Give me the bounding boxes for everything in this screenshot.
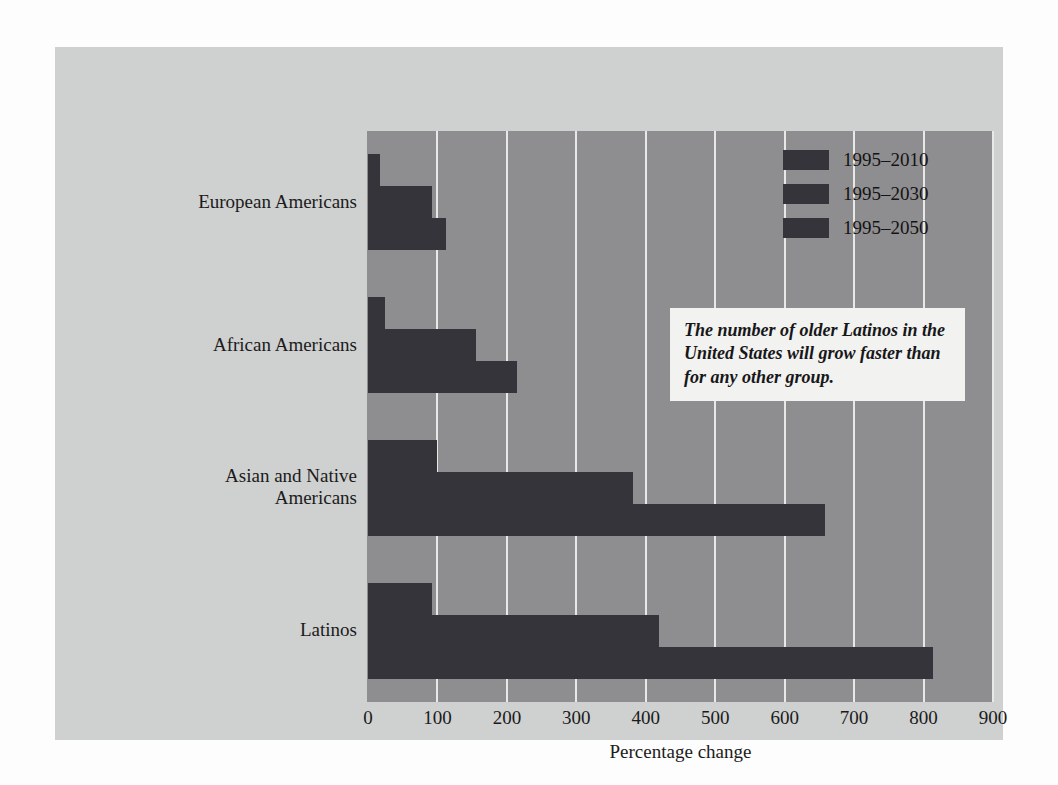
callout-text: The number of older Latinos in the Unite… — [684, 319, 951, 389]
legend-label: 1995–2030 — [843, 183, 929, 205]
x-tick-label-200: 200 — [493, 707, 522, 729]
legend-label: 1995–2010 — [843, 149, 929, 171]
legend-swatch-icon — [783, 184, 829, 204]
category-label-line: Latinos — [87, 619, 357, 641]
x-tick-label-600: 600 — [770, 707, 799, 729]
category-label-line: Americans — [87, 487, 357, 509]
category-label-2: Asian and NativeAmericans — [87, 465, 357, 510]
bar — [368, 329, 476, 361]
bar — [368, 647, 933, 679]
x-tick-label-300: 300 — [562, 707, 591, 729]
x-tick-label-700: 700 — [840, 707, 869, 729]
bar — [368, 218, 446, 250]
category-label-3: Latinos — [87, 619, 357, 641]
category-label-line: African Americans — [87, 334, 357, 356]
gridline-500 — [714, 131, 716, 702]
bar — [368, 361, 517, 393]
x-tick-label-800: 800 — [909, 707, 938, 729]
bar — [368, 472, 633, 504]
x-axis-tick-labels: 0100200300400500600700800900 — [368, 707, 993, 735]
chart-card: European AmericansAfrican AmericansAsian… — [55, 47, 1003, 740]
bar — [368, 583, 432, 615]
bar — [368, 154, 380, 186]
x-tick-label-900: 900 — [979, 707, 1008, 729]
legend-label: 1995–2050 — [843, 217, 929, 239]
x-axis-title: Percentage change — [368, 741, 993, 763]
legend-swatch-icon — [783, 218, 829, 238]
legend-item-2[interactable]: 1995–2050 — [783, 211, 973, 245]
category-label-0: European Americans — [87, 191, 357, 213]
bar — [368, 615, 659, 647]
legend-item-0[interactable]: 1995–2010 — [783, 143, 973, 177]
x-tick-label-400: 400 — [632, 707, 661, 729]
x-tick-label-500: 500 — [701, 707, 730, 729]
bar — [368, 297, 385, 329]
chart-page: European AmericansAfrican AmericansAsian… — [0, 0, 1058, 785]
bar — [368, 504, 825, 536]
x-tick-label-0: 0 — [363, 707, 373, 729]
gridline-900 — [992, 131, 994, 702]
bar — [368, 440, 437, 472]
bar — [368, 186, 432, 218]
x-tick-label-100: 100 — [423, 707, 452, 729]
category-label-line: European Americans — [87, 191, 357, 213]
category-label-line: Asian and Native — [87, 465, 357, 487]
category-label-1: African Americans — [87, 334, 357, 356]
category-axis-labels: European AmericansAfrican AmericansAsian… — [85, 131, 357, 702]
callout-box: The number of older Latinos in the Unite… — [670, 308, 965, 401]
legend: 1995–20101995–20301995–2050 — [783, 143, 973, 245]
legend-item-1[interactable]: 1995–2030 — [783, 177, 973, 211]
legend-swatch-icon — [783, 150, 829, 170]
